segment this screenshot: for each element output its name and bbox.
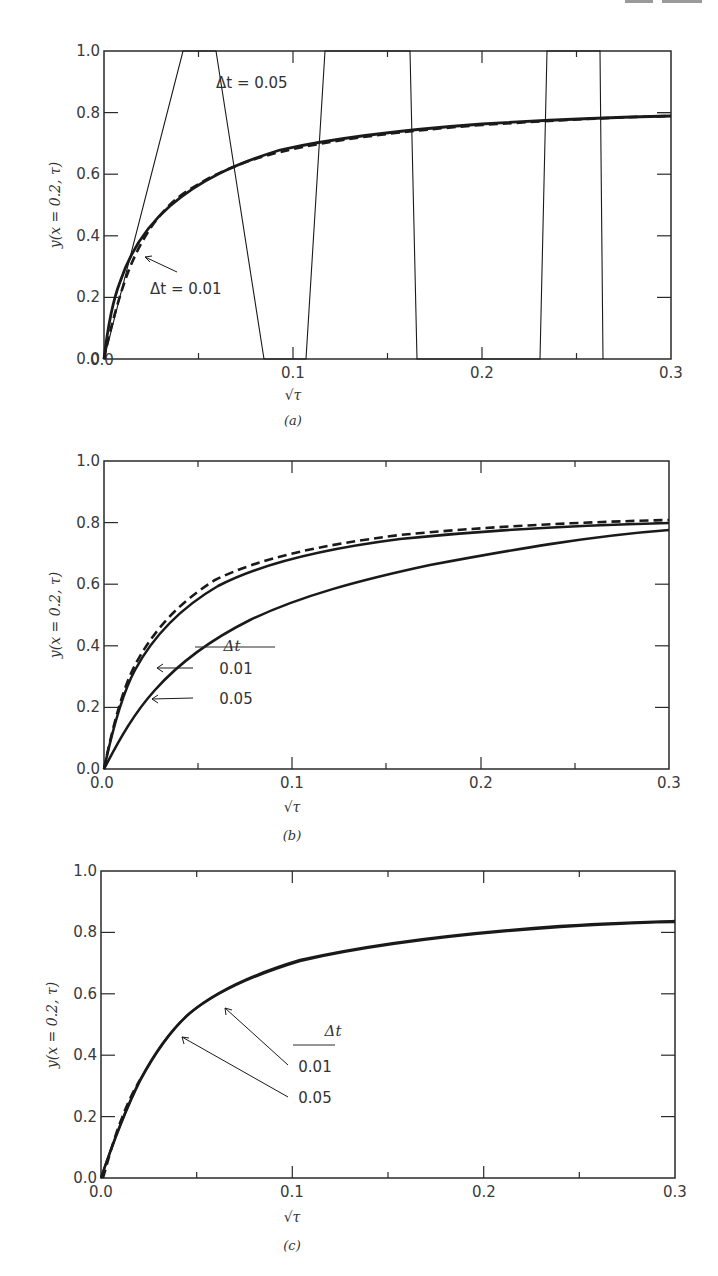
chart-a-ytick-5: 1.0 [76,42,100,60]
chart-b-ytick-2: 0.4 [76,637,100,655]
chart-a-series-dt001 [104,116,671,359]
chart-a-arrow-dt001 [145,256,177,272]
chart-a-xlabel: √τ [285,387,302,403]
chart-a-series-dt005 [104,51,603,359]
chart-c-ytick-3: 0.6 [73,985,97,1003]
chart-b-xticks [198,461,575,769]
chart-b-ytick-4: 0.8 [76,514,100,532]
chart-a-ytick-0: 0.0 [76,350,100,368]
chart-b-ytick-1: 0.2 [76,698,100,716]
figure-canvas: 0.0 0.1 0.2 0.3 0.0 0.2 0.4 0.6 0.8 1.0 … [0,0,718,1276]
chart-c-ytick-4: 0.8 [73,923,97,941]
chart-c-label-dt005: 0.05 [298,1089,331,1107]
chart-c-xtick-3: 0.3 [663,1183,687,1201]
chart-b-xtick-3: 0.3 [657,774,681,792]
chart-a: 0.0 0.1 0.2 0.3 0.0 0.2 0.4 0.6 0.8 1.0 … [47,42,683,428]
chart-a-annot-dt005: Δt = 0.05 [216,74,288,92]
chart-b: 0.0 0.1 0.2 0.3 0.0 0.2 0.4 0.6 0.8 1.0 … [47,452,681,843]
chart-c-ytick-1: 0.2 [73,1108,97,1126]
chart-c-ytick-2: 0.4 [73,1046,97,1064]
chart-b-xtick-2: 0.2 [469,774,493,792]
chart-c-legend-title: Δt [324,1022,343,1040]
chart-b-label-dt005: 0.05 [219,690,252,708]
chart-b-ytick-3: 0.6 [76,575,100,593]
chart-a-ytick-2: 0.4 [76,227,100,245]
chart-c-caption: (c) [283,1238,300,1253]
chart-c-frame [101,871,675,1178]
chart-a-ytick-1: 0.2 [76,288,100,306]
page-header-fragment [625,0,702,3]
chart-a-xtick-2: 0.2 [470,364,494,382]
chart-c-arrow-dt005 [182,1037,288,1097]
chart-a-caption: (a) [284,413,302,428]
chart-a-annot-dt001: Δt = 0.01 [150,280,222,298]
chart-b-series-exact [104,520,669,769]
chart-b-frame [104,461,669,769]
chart-c-series-dt005 [101,921,675,1178]
chart-b-yticks [104,523,669,708]
chart-b-ytick-5: 1.0 [76,452,100,470]
chart-a-xticks [199,51,577,359]
chart-b-ylabel: y(x = 0.2, τ) [47,572,63,659]
chart-c-ytick-0: 0.0 [73,1169,97,1187]
chart-b-arrow-dt005 [152,695,193,703]
chart-a-xtick-1: 0.1 [281,364,305,382]
chart-b-ytick-0: 0.0 [76,760,100,778]
chart-b-caption: (b) [283,828,301,843]
chart-b-xtick-1: 0.1 [280,774,304,792]
chart-a-xtick-3: 0.3 [659,364,683,382]
chart-a-ytick-3: 0.6 [76,165,100,183]
chart-b-xlabel: √τ [284,799,301,815]
chart-b-series-dt005 [104,530,669,769]
chart-c-xticks [197,871,580,1178]
chart-c-xtick-1: 0.1 [280,1183,304,1201]
chart-c-ytick-5: 1.0 [73,862,97,880]
chart-a-frame [104,51,671,359]
chart-b-series-dt001 [104,523,669,769]
chart-a-yticks [104,113,671,298]
chart-a-ylabel: y(x = 0.2, τ) [47,162,63,249]
chart-c-label-dt001: 0.01 [298,1058,331,1076]
chart-a-ytick-4: 0.8 [76,104,100,122]
chart-a-series-exact [104,116,671,359]
chart-c-xtick-2: 0.2 [472,1183,496,1201]
chart-c-ylabel: y(x = 0.2, τ) [44,982,60,1069]
chart-c-yticks [101,932,675,1116]
chart-c-series-dt001 [101,922,675,1178]
chart-c-arrow-dt001 [225,1008,288,1065]
chart-c: 0.0 0.1 0.2 0.3 0.0 0.2 0.4 0.6 0.8 1.0 … [44,862,687,1253]
chart-b-legend-title: Δt [223,637,242,655]
chart-c-xlabel: √τ [284,1209,301,1225]
chart-b-label-dt001: 0.01 [219,660,252,678]
